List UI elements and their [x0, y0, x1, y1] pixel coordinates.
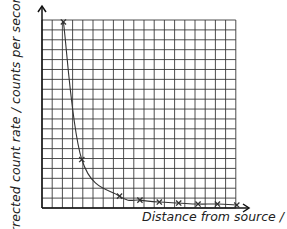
data-markers [61, 19, 240, 207]
y-axis-label: Corrected count rate / counts per second [8, 0, 23, 229]
grid-lines [42, 20, 236, 208]
plot-area [0, 0, 287, 229]
y-axis-label-container: Corrected count rate / counts per second [0, 0, 30, 229]
x-axis-label: Distance from source / m [142, 209, 287, 224]
chart-container: Corrected count rate / counts per second… [0, 0, 287, 229]
